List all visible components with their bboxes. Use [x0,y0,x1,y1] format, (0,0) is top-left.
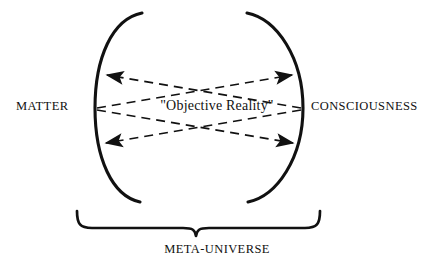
label-meta-universe: META-UNIVERSE [0,242,434,257]
connector-consciousness-to-matter-lower [106,110,301,143]
diagram-graphics [0,0,434,270]
connector-matter-to-consciousness-lower [97,110,293,143]
bottom-curly-brace-icon [77,211,320,236]
label-objective-reality: "Objective Reality" [0,98,434,114]
diagram-canvas: MATTER CONSCIOUSNESS "Objective Reality"… [0,0,434,270]
